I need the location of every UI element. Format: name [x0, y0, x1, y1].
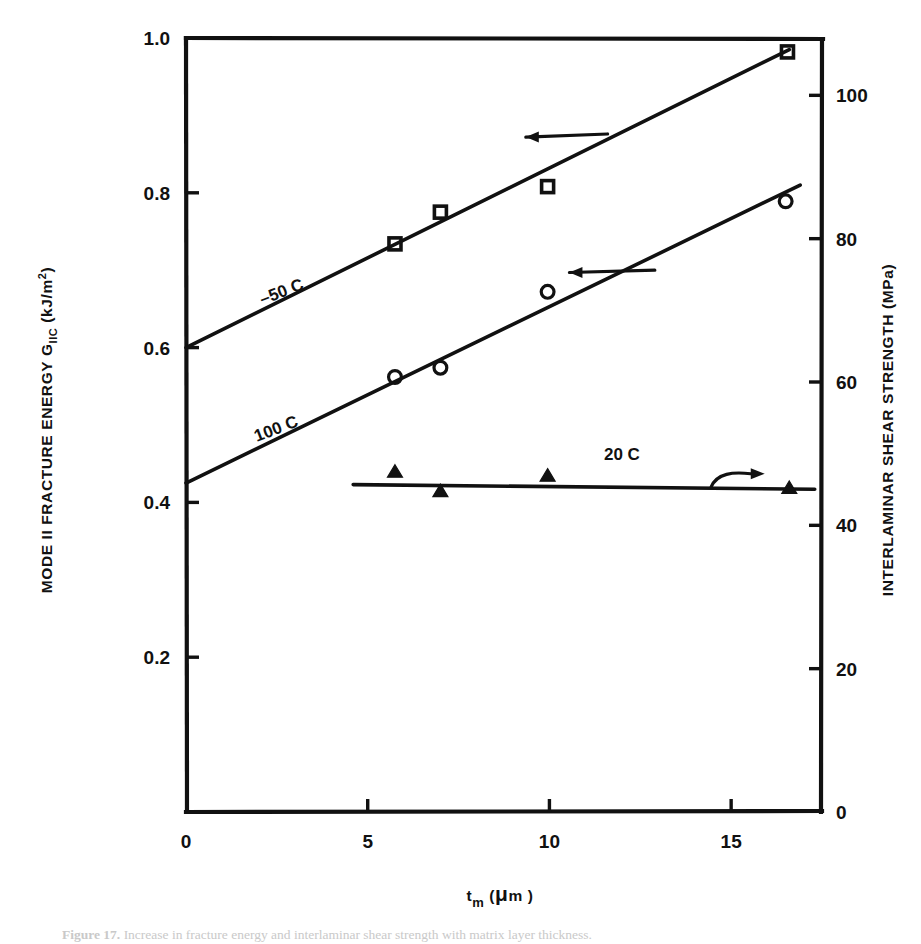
- x-tick-label: 15: [721, 831, 743, 852]
- y-tick-label-left: 0.2: [144, 647, 170, 668]
- annotation-arrow-head: [569, 267, 582, 278]
- annotation-arrow-head: [751, 468, 765, 479]
- axis-left: [186, 38, 187, 812]
- caption-text: Increase in fracture energy and interlam…: [124, 927, 592, 942]
- data-point-open-circle: [541, 285, 554, 298]
- figure-caption: Figure 17. Increase in fracture energy a…: [62, 925, 882, 944]
- series-label: 20 C: [604, 445, 640, 464]
- y-tick-label-right: 20: [836, 659, 857, 680]
- x-tick-label: 5: [362, 831, 373, 852]
- data-point-filled-triangle: [540, 469, 555, 482]
- x-tick-label: 0: [181, 831, 192, 852]
- y-tick-label-left: 1.0: [144, 28, 170, 49]
- data-point-filled-triangle: [387, 465, 402, 478]
- data-point-open-circle: [779, 195, 792, 208]
- y-tick-label-right: 100: [836, 85, 868, 106]
- axis-bottom: [186, 811, 822, 812]
- annotation-arrow-head: [526, 132, 539, 143]
- y-tick-label-right: 40: [836, 515, 857, 536]
- annotation-arrow-curve: [711, 473, 751, 487]
- axis-right: [821, 39, 822, 812]
- y-tick-label-left: 0.4: [144, 492, 171, 513]
- fit-line: [186, 185, 800, 483]
- y-tick-label-left: 0.6: [144, 338, 170, 359]
- x-axis-title: tm (μm ): [466, 882, 533, 910]
- y-axis-title-left: MODE II FRACTURE ENERGY GIIC (kJ/m2): [36, 267, 59, 594]
- data-point-open-square: [434, 206, 446, 218]
- data-point-open-circle: [434, 361, 447, 374]
- svg-text:MODE II FRACTURE ENERGY GIIC: MODE II FRACTURE ENERGY GIIC (kJ/m2): [36, 267, 59, 594]
- data-point-open-square: [542, 181, 554, 193]
- x-tick-label: 10: [539, 831, 560, 852]
- y-tick-label-right: 0: [836, 802, 847, 823]
- y-tick-label-right: 80: [836, 229, 857, 250]
- y-tick-label-right: 60: [836, 372, 857, 393]
- y-axis-title-right: INTERLAMINAR SHEAR STRENGTH (MPa): [879, 264, 896, 596]
- fit-line: [353, 485, 815, 490]
- chart-canvas: 0.20.40.60.81.0020406080100051015MODE II…: [0, 0, 921, 944]
- y-tick-label-left: 0.8: [144, 183, 170, 204]
- axis-top: [186, 38, 823, 39]
- caption-label: Figure 17.: [62, 927, 120, 942]
- series-label: –50 C: [257, 275, 306, 309]
- figure-container: 0.20.40.60.81.0020406080100051015MODE II…: [0, 0, 921, 944]
